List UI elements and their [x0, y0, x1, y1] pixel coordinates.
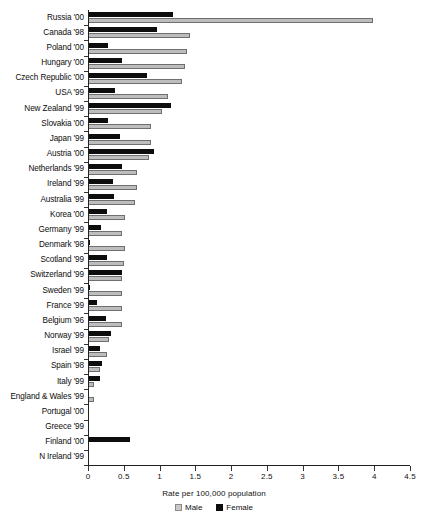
- x-axis-title: Rate per 100,000 population: [0, 489, 428, 498]
- bar-row: [88, 177, 410, 192]
- bar-male: [88, 33, 190, 38]
- category-label: New Zealand '99: [0, 104, 84, 113]
- y-axis-tick: [84, 389, 88, 390]
- y-axis-tick: [84, 420, 88, 421]
- x-axis-ticks: 00.511.522.533.544.5: [88, 466, 410, 488]
- bar-row: [88, 450, 410, 465]
- bar-female: [88, 134, 120, 139]
- category-label: Japan '99: [0, 134, 84, 143]
- y-axis-tick: [84, 283, 88, 284]
- category-label: Russia '00: [0, 13, 84, 22]
- bar-row: [88, 222, 410, 237]
- x-axis-tick: [195, 466, 196, 471]
- y-axis-tick: [84, 25, 88, 26]
- x-axis-tick: [410, 466, 411, 471]
- bar-male: [88, 200, 135, 205]
- y-axis-tick: [84, 238, 88, 239]
- bar-male: [88, 352, 107, 357]
- category-label: Austria '00: [0, 149, 84, 158]
- bar-row: [88, 101, 410, 116]
- bar-male: [88, 215, 125, 220]
- category-label: Denmark '98: [0, 240, 84, 249]
- y-axis-tick: [84, 147, 88, 148]
- x-axis-tick-label: 3.5: [333, 472, 345, 481]
- bar-male: [88, 94, 168, 99]
- bar-row: [88, 420, 410, 435]
- plot-area: [88, 10, 410, 465]
- bar-female: [88, 43, 108, 48]
- x-axis-tick-label: 4.5: [404, 472, 416, 481]
- y-axis-tick: [84, 131, 88, 132]
- bar-row: [88, 283, 410, 298]
- bar-male: [88, 49, 187, 54]
- bar-row: [88, 207, 410, 222]
- category-label: Finland '00: [0, 437, 84, 446]
- y-axis-tick: [84, 71, 88, 72]
- bar-female: [88, 361, 102, 366]
- y-axis-tick: [84, 162, 88, 163]
- legend-item-female: Female: [216, 503, 253, 512]
- x-axis-tick-label: 3: [300, 472, 305, 481]
- x-axis-tick-label: 0.5: [118, 472, 130, 481]
- y-axis-tick: [84, 222, 88, 223]
- category-label: Norway '99: [0, 331, 84, 340]
- y-axis-tick: [84, 298, 88, 299]
- bar-row: [88, 147, 410, 162]
- y-axis-tick: [84, 268, 88, 269]
- bar-row: [88, 238, 410, 253]
- x-axis-tick: [88, 466, 89, 471]
- bar-female: [88, 103, 171, 108]
- bar-female: [88, 376, 100, 381]
- bar-row: [88, 404, 410, 419]
- bar-row: [88, 313, 410, 328]
- bar-chart: Russia '00Canada '98Poland '00Hungary '0…: [0, 0, 428, 527]
- bar-female: [88, 149, 154, 154]
- bar-female: [88, 209, 107, 214]
- bar-male: [88, 155, 149, 160]
- category-label: Czech Republic '00: [0, 73, 84, 82]
- x-axis-tick-label: 2.5: [261, 472, 273, 481]
- female-swatch-icon: [216, 504, 223, 511]
- x-axis-tick-label: 1: [157, 472, 162, 481]
- bar-female: [88, 179, 113, 184]
- category-label: Ireland '99: [0, 179, 84, 188]
- category-label: Belgium '96: [0, 316, 84, 325]
- bar-rows: [88, 10, 410, 465]
- category-label: Israel '99: [0, 346, 84, 355]
- category-label: Netherlands '99: [0, 164, 84, 173]
- bar-male: [88, 140, 151, 145]
- x-axis-tick-label: 1.5: [189, 472, 201, 481]
- bar-female: [88, 346, 100, 351]
- bar-male: [88, 18, 373, 23]
- legend-label-female: Female: [226, 503, 253, 512]
- bar-male: [88, 291, 122, 296]
- y-axis-tick: [84, 116, 88, 117]
- bar-row: [88, 40, 410, 55]
- bar-female: [88, 27, 157, 32]
- category-label: Canada '98: [0, 28, 84, 37]
- x-axis-tick-label: 2: [229, 472, 234, 481]
- bar-male: [88, 246, 125, 251]
- y-axis-line: [88, 10, 89, 465]
- bar-row: [88, 298, 410, 313]
- bar-row: [88, 268, 410, 283]
- bar-male: [88, 109, 162, 114]
- bar-male: [88, 337, 109, 342]
- x-axis-tick: [231, 466, 232, 471]
- x-axis-tick: [303, 466, 304, 471]
- bar-female: [88, 316, 106, 321]
- category-label: Greece '99: [0, 422, 84, 431]
- bar-female: [88, 12, 173, 17]
- y-axis-tick: [84, 253, 88, 254]
- bar-female: [88, 255, 107, 260]
- y-axis-tick: [84, 40, 88, 41]
- category-label: England & Wales '99: [0, 392, 84, 401]
- male-swatch-icon: [175, 504, 182, 511]
- y-axis-tick: [84, 56, 88, 57]
- bar-female: [88, 300, 97, 305]
- category-label: Portugal '00: [0, 407, 84, 416]
- bar-male: [88, 124, 151, 129]
- bar-female: [88, 437, 130, 442]
- bar-female: [88, 88, 115, 93]
- category-label: Spain '98: [0, 361, 84, 370]
